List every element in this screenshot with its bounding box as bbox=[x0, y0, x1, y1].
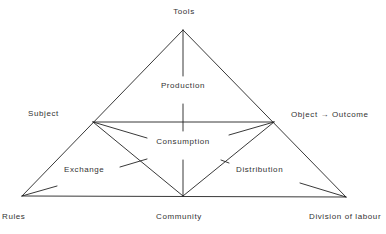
node-community: Community bbox=[156, 212, 202, 222]
activity-system-diagram: Tools Subject Object → Outcome Rules Com… bbox=[0, 0, 386, 234]
node-rules: Rules bbox=[2, 212, 25, 222]
process-production: Production bbox=[161, 81, 205, 91]
tick-subject-consumption bbox=[93, 122, 147, 138]
tick-distribution bbox=[221, 160, 229, 163]
node-subject: Subject bbox=[28, 109, 59, 119]
process-consumption: Consumption bbox=[156, 137, 210, 147]
node-division-of-labour: Division of labour bbox=[309, 212, 381, 222]
edge-subject-community bbox=[93, 122, 183, 196]
edge-base bbox=[22, 196, 346, 197]
process-distribution: Distribution bbox=[236, 165, 283, 175]
node-object-outcome: Object → Outcome bbox=[291, 110, 369, 120]
tick-object-consumption bbox=[229, 122, 274, 135]
node-tools: Tools bbox=[173, 7, 195, 17]
edge-object-community bbox=[183, 122, 274, 196]
process-exchange: Exchange bbox=[64, 165, 104, 175]
